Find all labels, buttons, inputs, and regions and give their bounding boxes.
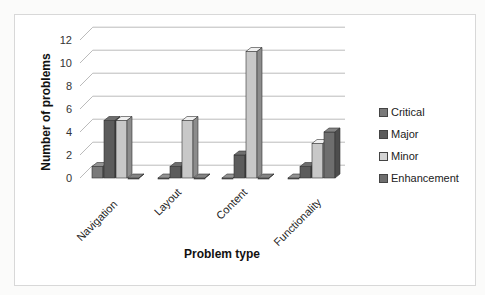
legend-item-enhancement: Enhancement	[379, 167, 459, 189]
y-axis-ticks: 024681012	[60, 34, 72, 184]
y-tick-label: 4	[66, 126, 72, 138]
bar-content-minor	[246, 48, 262, 179]
bar-functionality-enhancement	[324, 128, 340, 178]
x-axis-ticks: NavigationLayoutContentFunctionality	[74, 186, 324, 248]
y-tick-label: 0	[66, 172, 72, 184]
bar-layout-minor	[182, 117, 198, 179]
bars	[92, 48, 340, 180]
x-tick-label: Layout	[152, 186, 184, 218]
legend-swatch	[379, 152, 388, 161]
y-tick-label: 8	[66, 80, 72, 92]
bar-navigation-minor	[116, 117, 132, 179]
legend-swatch	[379, 174, 388, 183]
legend-item-minor: Minor	[379, 145, 459, 167]
y-axis-title: Number of problems	[39, 53, 53, 171]
legend-swatch	[379, 108, 388, 117]
legend-item-major: Major	[379, 123, 459, 145]
legend-item-critical: Critical	[379, 101, 459, 123]
x-axis-title: Problem type	[184, 247, 260, 261]
y-tick-label: 10	[60, 57, 72, 69]
x-tick-label: Navigation	[74, 198, 119, 243]
x-tick-label: Content	[214, 186, 250, 222]
y-tick-label: 12	[60, 34, 72, 46]
legend: Critical Major Minor Enhancement	[379, 101, 459, 189]
y-tick-label: 2	[66, 149, 72, 161]
y-tick-label: 6	[66, 103, 72, 115]
x-tick-label: Functionality	[271, 196, 324, 249]
legend-swatch	[379, 130, 388, 139]
